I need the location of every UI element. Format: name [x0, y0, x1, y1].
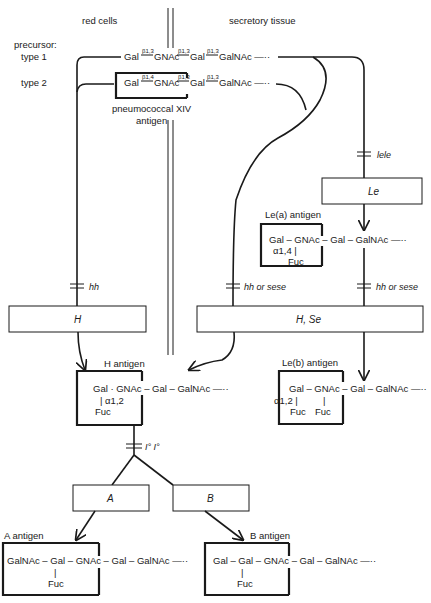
svg-text:β1,3: β1,3 — [178, 74, 190, 80]
svg-text:β1,3: β1,3 — [178, 48, 190, 54]
svg-text:GalNAc —··: GalNAc —·· — [219, 77, 270, 88]
svg-text:GNAc: GNAc — [154, 77, 180, 88]
leb-branch-sugar1: Fuc — [290, 406, 306, 417]
a-antigen-title: A antigen — [4, 530, 44, 541]
gene-lele: lele — [377, 150, 391, 160]
a-chain: GalNAc – Gal – GNAc – Gal – GalNAc —·· — [7, 555, 188, 566]
b-branch-bar: | — [241, 567, 243, 578]
svg-text:GalNAc —··: GalNAc —·· — [219, 51, 270, 62]
b-to-b-antigen-arrow — [205, 511, 243, 540]
a-branch-bar: | — [54, 567, 56, 578]
split-to-a-line — [112, 455, 134, 485]
h-branch-sugar: Fuc — [95, 406, 111, 417]
lea-antigen-title: Le(a) antigen — [265, 209, 321, 220]
lea-branch-sugar: Fuc — [288, 256, 304, 267]
split-to-b-line — [134, 455, 173, 485]
svg-text:β1,3: β1,3 — [142, 48, 154, 54]
type1-to-le-line — [278, 57, 364, 180]
hse-to-h-antigen-arrow — [189, 332, 234, 370]
gene-hh-or-sese-left: hh or sese — [244, 282, 286, 292]
svg-text:GNAc: GNAc — [154, 51, 180, 62]
svg-text:β1,4: β1,4 — [142, 74, 154, 80]
svg-text:β1,3: β1,3 — [207, 48, 219, 54]
svg-text:Gal: Gal — [190, 51, 205, 62]
precursor-label: precursor: — [14, 39, 57, 50]
leb-branch-bar2: | — [323, 395, 325, 406]
gene-IoIo: I° I° — [145, 442, 160, 452]
precursor-type1-label: type 1 — [21, 51, 47, 62]
type2-to-hse-curve — [276, 84, 306, 110]
gene-hh: hh — [89, 282, 99, 292]
leb-branch-sugar2: Fuc — [315, 406, 331, 417]
svg-text:Gal: Gal — [124, 51, 139, 62]
enzyme-h-label: H — [74, 314, 82, 325]
h-branch-link: | α1,2 — [100, 395, 124, 406]
header-secretory-tissue: secretory tissue — [229, 15, 296, 26]
pneumococcal-label-line2: antigen — [136, 115, 167, 126]
svg-text:Gal: Gal — [190, 77, 205, 88]
enzyme-a-label: A — [106, 493, 114, 504]
type2-to-trunk-line — [77, 84, 114, 92]
h-antigen-title: H antigen — [104, 358, 145, 369]
leb-chain: Gal – GNAc – Gal – GalNAc —·· — [289, 383, 427, 394]
enzyme-b-label: B — [207, 493, 214, 504]
type1-to-hse-curve — [233, 57, 326, 306]
precursor-type2-label: type 2 — [21, 77, 47, 88]
type2-chain: Gal β1,4 GNAc β1,3 Gal β1,3 GalNAc —·· — [124, 74, 270, 88]
lea-branch-link: α1,4 | — [273, 245, 297, 256]
enzyme-le-label: Le — [368, 186, 380, 197]
type1-chain: Gal β1,3 GNAc β1,3 Gal β1,3 GalNAc —·· — [124, 48, 270, 62]
svg-text:Gal: Gal — [124, 77, 139, 88]
abh-lewis-biosynthesis-diagram: red cells secretory tissue precursor: ty… — [0, 0, 431, 603]
pneumococcal-label-line1: pneumococcal XIV — [112, 103, 192, 114]
b-chain: Gal – Gal – GNAc – Gal – GalNAc —·· — [213, 555, 376, 566]
lea-chain: Gal – GNAc – Gal – GalNAc —·· — [269, 234, 407, 245]
h-to-h-antigen-arrow — [78, 332, 85, 370]
leb-branch-link: α1,2 | — [274, 395, 298, 406]
gene-hh-or-sese-right: hh or sese — [376, 282, 418, 292]
b-branch-sugar: Fuc — [237, 578, 253, 589]
h-chain: Gal · GNAc – Gal – GalNAc —·· — [93, 383, 229, 394]
header-red-cells: red cells — [82, 15, 118, 26]
leb-antigen-title: Le(b) antigen — [282, 357, 338, 368]
enzyme-hse-label: H, Se — [296, 314, 321, 325]
a-to-a-antigen-arrow — [76, 511, 95, 540]
b-antigen-title: B antigen — [250, 530, 290, 541]
svg-text:β1,3: β1,3 — [207, 74, 219, 80]
type1-to-h-line — [77, 57, 121, 306]
a-branch-sugar: Fuc — [48, 578, 64, 589]
